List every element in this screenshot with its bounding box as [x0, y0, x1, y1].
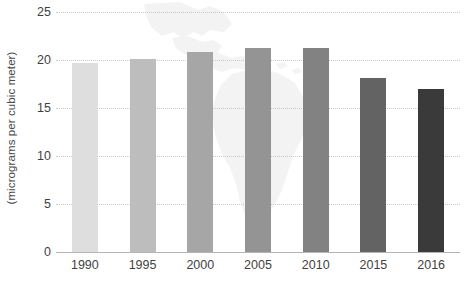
bar [245, 48, 271, 252]
y-axis-tick-labels: 0510152025 [22, 0, 56, 256]
x-tick-label: 2010 [302, 258, 330, 272]
x-tick-label: 2015 [360, 258, 388, 272]
y-tick-label: 20 [37, 53, 51, 67]
bar-chart: llll (micrograms per cubic meter) 051015… [0, 0, 470, 288]
y-tick-label: 0 [44, 245, 51, 259]
x-tick-label: 2016 [417, 258, 445, 272]
bar [360, 78, 386, 252]
x-tick-label: 1995 [129, 258, 157, 272]
y-tick-label: 5 [44, 197, 51, 211]
y-tick-label: 10 [37, 149, 51, 163]
axis-baseline [56, 252, 460, 253]
bar [418, 89, 444, 252]
y-tick-label: 25 [37, 5, 51, 19]
y-axis-title: (micrograms per cubic meter) [0, 0, 22, 256]
bars [56, 12, 460, 252]
bar [72, 63, 98, 252]
x-tick-label: 1990 [71, 258, 99, 272]
x-tick-label: 2000 [186, 258, 214, 272]
bar [303, 48, 329, 252]
y-axis-title-text: (micrograms per cubic meter) [5, 52, 17, 205]
x-axis-tick-labels: 1990199520002005201020152016 [56, 258, 460, 282]
bar [130, 59, 156, 252]
plot-area [56, 12, 460, 252]
y-tick-label: 15 [37, 101, 51, 115]
x-tick-label: 2005 [244, 258, 272, 272]
bar [187, 52, 213, 252]
